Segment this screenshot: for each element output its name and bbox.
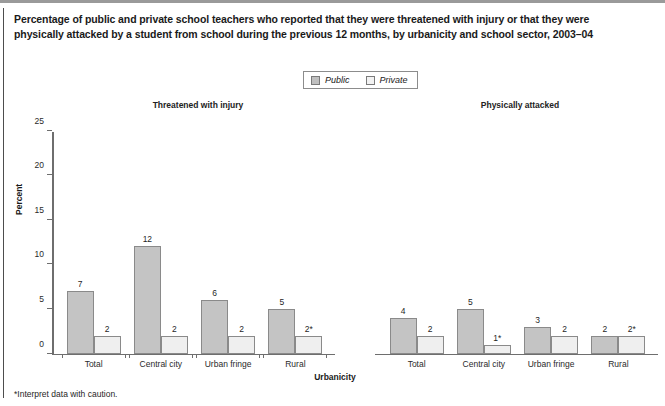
x-axis-tick — [196, 354, 197, 358]
bar-group: 32 — [520, 131, 582, 354]
x-axis-tick — [326, 354, 327, 358]
y-axis-tick — [47, 263, 52, 264]
y-axis-tick-label: 5 — [22, 294, 44, 304]
y-axis-line — [52, 132, 54, 355]
bar-value-label: 5 — [468, 297, 473, 308]
figure-container: Percentage of public and private school … — [0, 0, 665, 406]
x-axis-tick — [129, 354, 130, 358]
bar-value-label: 5 — [280, 297, 285, 308]
bar-value-label: 2 — [172, 324, 177, 335]
bar-column: 1* — [484, 131, 511, 354]
y-axis-tick — [47, 308, 52, 309]
bar-group-inner: 122 — [130, 131, 192, 354]
x-axis-tick — [263, 354, 264, 358]
bar-group-inner: 42 — [386, 131, 448, 354]
bar-column: 2 — [161, 131, 188, 354]
bar-value-label: 3 — [535, 315, 540, 326]
bar-public[interactable] — [457, 309, 484, 354]
x-axis-baseline-left — [52, 354, 335, 356]
bar-value-label: 2* — [305, 324, 313, 335]
bar-public[interactable] — [201, 300, 228, 354]
y-axis-tick — [47, 130, 52, 131]
bar-value-label: 2 — [562, 324, 567, 335]
plot-panel-attacked: 4251*3222* — [375, 130, 658, 355]
bar-value-label: 12 — [143, 234, 152, 245]
y-axis-tick — [47, 219, 52, 220]
figure-left-rule — [3, 8, 4, 398]
bar-column: 2 — [591, 131, 618, 354]
x-axis-label: Urbanicity — [285, 372, 385, 382]
bar-column: 3 — [524, 131, 551, 354]
legend-swatch-public — [311, 76, 320, 85]
bar-public[interactable] — [390, 318, 417, 354]
bar-column: 7 — [67, 131, 94, 354]
bar-group: 42 — [386, 131, 448, 354]
bar-value-label: 2* — [628, 324, 636, 335]
bar-value-label: 2 — [428, 324, 433, 335]
plot-panel-threatened: 0510152025 721226252* — [52, 130, 335, 355]
legend-item-public: Public — [311, 75, 350, 85]
bar-group: 51* — [453, 131, 515, 354]
bar-column: 2 — [94, 131, 121, 354]
bar-private[interactable] — [618, 336, 645, 354]
chart-legend: Public Private — [303, 71, 418, 89]
bar-column: 4 — [390, 131, 417, 354]
bar-value-label: 6 — [212, 288, 217, 299]
bar-group-inner: 32 — [520, 131, 582, 354]
bar-public[interactable] — [134, 246, 161, 353]
figure-title: Percentage of public and private school … — [14, 12, 634, 42]
bar-group: 62 — [197, 131, 259, 354]
bar-public[interactable] — [67, 291, 94, 353]
bar-column: 12 — [134, 131, 161, 354]
y-axis-tick-label: 15 — [22, 205, 44, 215]
y-axis-tick — [47, 353, 52, 354]
bar-private[interactable] — [295, 336, 322, 354]
bar-value-label: 2 — [105, 324, 110, 335]
bar-group: 52* — [264, 131, 326, 354]
bar-value-label: 7 — [78, 279, 83, 290]
bar-private[interactable] — [161, 336, 188, 354]
y-axis-tick-label: 10 — [22, 249, 44, 259]
bar-private[interactable] — [417, 336, 444, 354]
bar-value-label: 4 — [401, 306, 406, 317]
bar-public[interactable] — [268, 309, 295, 354]
bar-public[interactable] — [524, 327, 551, 354]
bar-column: 2 — [417, 131, 444, 354]
y-axis-tick — [47, 174, 52, 175]
bar-group: 72 — [63, 131, 125, 354]
x-axis-tick — [125, 354, 126, 358]
x-axis-category-label: Rural — [255, 359, 335, 369]
bar-column: 2 — [228, 131, 255, 354]
bar-private[interactable] — [484, 345, 511, 354]
bar-private[interactable] — [228, 336, 255, 354]
figure-top-rule — [0, 0, 665, 3]
legend-label-public: Public — [325, 75, 350, 85]
bar-group-inner: 51* — [453, 131, 515, 354]
x-axis-tick — [259, 354, 260, 358]
bar-column: 2* — [618, 131, 645, 354]
bar-value-label: 2 — [603, 324, 608, 335]
x-axis-baseline-right — [375, 354, 658, 356]
bar-group-inner: 22* — [587, 131, 649, 354]
bar-group-inner: 52* — [264, 131, 326, 354]
figure-footnote: *Interpret data with caution. — [14, 389, 117, 399]
bar-group-inner: 72 — [63, 131, 125, 354]
bar-public[interactable] — [591, 336, 618, 354]
bar-column: 5 — [268, 131, 295, 354]
legend-item-private: Private — [366, 75, 408, 85]
bar-column: 2* — [295, 131, 322, 354]
bar-column: 5 — [457, 131, 484, 354]
bar-value-label: 2 — [239, 324, 244, 335]
bar-group: 22* — [587, 131, 649, 354]
bar-private[interactable] — [94, 336, 121, 354]
legend-label-private: Private — [380, 75, 408, 85]
bar-column: 2 — [551, 131, 578, 354]
x-axis-tick — [62, 354, 63, 358]
x-axis-tick — [192, 354, 193, 358]
bar-value-label: 1* — [493, 333, 501, 344]
bar-private[interactable] — [551, 336, 578, 354]
panel-caption-attacked: Physically attacked — [430, 100, 610, 110]
bar-column: 6 — [201, 131, 228, 354]
x-axis-category-label: Rural — [578, 359, 658, 369]
y-axis-tick-label: 0 — [22, 339, 44, 349]
